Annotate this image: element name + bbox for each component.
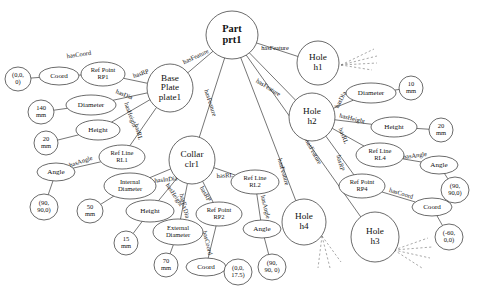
graph-node-val_ang_h2[interactable]: (90,90,0) [441, 177, 469, 203]
graph-node-h1[interactable]: Holeh1 [297, 41, 339, 85]
graph-node-ang_c[interactable]: Angle [243, 220, 281, 238]
dashed-ray [394, 250, 422, 268]
node-label: prt1 [223, 34, 242, 45]
node-label: mm [121, 242, 131, 249]
node-label: mm [41, 142, 51, 149]
edge-label: hasRL [338, 127, 351, 145]
node-label: Height [88, 126, 107, 134]
graph-node-h2[interactable]: Holeh2 [289, 93, 335, 141]
graph-node-rl2[interactable]: Ref LineRL2 [231, 170, 279, 194]
graph-edge [124, 78, 148, 83]
edge-label: hasAngle [260, 194, 273, 219]
node-label: 90,0) [448, 189, 462, 197]
graph-edge [417, 128, 429, 129]
edge-label: hasFeature [203, 88, 218, 117]
graph-edge [48, 181, 53, 195]
graph-edge [133, 221, 142, 233]
node-label: Angle [253, 225, 270, 233]
graph-node-ang_h2[interactable]: Angle [420, 156, 458, 174]
graph-node-plate1[interactable]: BasePlateplate1 [147, 64, 193, 112]
knowledge-graph-svg: hasFeaturehasFeaturehasFeaturehasFeature… [0, 0, 489, 297]
graph-edge [54, 108, 68, 110]
edge-label: hasFeature [182, 47, 210, 65]
graph-node-val_ang_c[interactable]: (90,90, 0) [258, 254, 286, 280]
graph-node-coord_c[interactable]: Coord [186, 258, 226, 276]
node-label: Coord [50, 72, 68, 80]
node-label: Diameter [78, 101, 105, 109]
node-label: 0) [15, 78, 20, 86]
graph-node-val_15mm[interactable]: 15mm [114, 231, 138, 255]
graph-node-clr1[interactable]: Collarclr1 [169, 136, 215, 184]
graph-node-rl4[interactable]: Ref LineRL4 [356, 143, 404, 167]
graph-node-val_000_p1[interactable]: (0,0,0) [5, 67, 31, 91]
graph-node-coord_p1[interactable]: Coord [39, 67, 79, 85]
node-label: h1 [313, 62, 323, 72]
graph-edge [170, 245, 173, 254]
graph-edge [437, 216, 443, 226]
graph-node-val_m60[interactable]: (-60,0,0) [435, 224, 463, 250]
node-label: mm [85, 210, 95, 217]
graph-node-h4[interactable]: Holeh4 [282, 199, 326, 245]
edge-label: hasCoord [202, 230, 215, 256]
graph-edge [395, 89, 399, 90]
graph-node-rp4[interactable]: Ref PointRP4 [339, 174, 385, 198]
node-label: RL1 [116, 156, 128, 163]
graph-node-prt1[interactable]: Partprt1 [206, 11, 258, 59]
node-label: Angle [430, 161, 447, 169]
graph-node-val_140mm[interactable]: 140mm [28, 100, 54, 124]
edge-label: hasRP [132, 67, 150, 79]
graph-node-dia_p1[interactable]: Diameter [66, 95, 116, 115]
graph-node-coord_h2[interactable]: Coord [412, 198, 452, 216]
node-label: Height [384, 123, 403, 131]
graph-node-h3[interactable]: Holeh3 [351, 212, 399, 262]
node-label: RP1 [97, 73, 108, 80]
graph-node-rp1[interactable]: Ref PointRP1 [81, 62, 125, 86]
edge-label: hasDia [333, 90, 348, 109]
graph-node-val_20mm_h2[interactable]: 20mm [429, 118, 453, 142]
graph-node-ang_p1[interactable]: Angle [37, 163, 75, 181]
edge-label: hasFeature [304, 138, 324, 166]
graph-node-rl1[interactable]: Ref LineRL1 [99, 145, 145, 169]
graph-node-hgt_p1[interactable]: Height [76, 120, 120, 140]
node-label: Diameter [118, 185, 143, 192]
dashed-ray [341, 56, 377, 65]
graph-node-rp2[interactable]: Ref PointRP2 [196, 202, 242, 226]
edge-label: hasRL [216, 171, 233, 179]
edge-label: hasDia [115, 87, 134, 100]
edge-label: hasFeature [255, 77, 282, 98]
graph-node-hgt_h2[interactable]: Height [371, 117, 417, 137]
edge-label: hasAngle [402, 150, 427, 160]
graph-node-india_c[interactable]: InternalDiameter [104, 173, 156, 199]
graph-edge [58, 135, 79, 140]
graph-node-exdia_c[interactable]: ExternalDiameter [153, 219, 203, 245]
node-label: h4 [299, 221, 309, 231]
node-label: 0,0) [444, 236, 454, 244]
dashed-ray [318, 236, 322, 268]
graph-edge [101, 196, 114, 204]
graph-node-val_50mm[interactable]: 50mm [77, 199, 103, 223]
node-label: Coord [423, 203, 441, 211]
graph-node-dia_h2[interactable]: Diameter [346, 83, 396, 103]
node-label: 17.5) [231, 271, 245, 279]
dashed-ray [341, 63, 377, 65]
node-label: 90,0) [37, 206, 51, 214]
graph-edge [264, 238, 268, 254]
graph-node-val_20mm_p1[interactable]: 20mm [34, 131, 58, 155]
graph-node-val_70mm[interactable]: 70mm [154, 253, 178, 277]
node-label: Coord [197, 263, 215, 271]
node-label: RL4 [374, 154, 386, 161]
graph-node-val_ang_p1[interactable]: (90,90,0) [30, 194, 58, 220]
graph-edge [257, 194, 261, 220]
edge-label: hasRP [336, 154, 347, 172]
graph-node-val_10mm[interactable]: 10mm [399, 76, 423, 100]
edge-label: hasRP [199, 185, 213, 203]
node-label: Height [140, 207, 159, 215]
edge-label: hasCoord [66, 49, 92, 59]
dashed-ray [322, 236, 330, 268]
node-label: mm [161, 264, 171, 271]
node-label: mm [436, 129, 446, 136]
graph-node-hgt_c[interactable]: Height [126, 200, 174, 222]
graph-node-val_00175[interactable]: (0,0,17.5) [224, 259, 252, 285]
dashed-ray [394, 250, 430, 258]
node-label: h3 [370, 236, 380, 246]
